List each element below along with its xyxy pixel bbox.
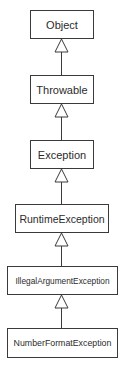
hollow-triangle-arrow-icon xyxy=(55,295,68,308)
class-name: NumberFormatException xyxy=(14,338,112,348)
class-box-exception: Exception xyxy=(30,140,94,169)
class-box-illegal-argument-exception: IllegalArgumentException xyxy=(7,266,118,295)
class-box-number-format-exception: NumberFormatException xyxy=(7,328,118,358)
inheritance-diagram: Object Throwable Exception RuntimeExcept… xyxy=(0,0,124,378)
class-box-throwable: Throwable xyxy=(30,75,94,104)
class-name: IllegalArgumentException xyxy=(15,276,109,286)
inheritance-arrows xyxy=(0,0,124,378)
class-name: Exception xyxy=(38,149,86,161)
class-box-runtime-exception: RuntimeException xyxy=(15,204,109,233)
hollow-triangle-arrow-icon xyxy=(55,233,68,246)
class-name: RuntimeException xyxy=(19,213,104,225)
class-box-object: Object xyxy=(30,10,94,39)
class-name: Throwable xyxy=(36,84,87,96)
hollow-triangle-arrow-icon xyxy=(55,169,68,182)
hollow-triangle-arrow-icon xyxy=(55,39,68,52)
class-name: Object xyxy=(46,19,78,31)
hollow-triangle-arrow-icon xyxy=(55,104,68,117)
